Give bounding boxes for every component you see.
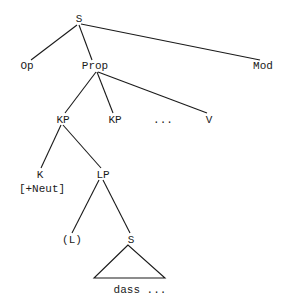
edge-kp1-k [41,125,61,168]
node-kp2: KP [108,114,122,126]
edge-s-op [31,25,77,60]
triangle-content-dass: dass ... [114,284,167,296]
triangle-abbreviation [94,245,165,278]
node-s-root: S [76,13,83,25]
edge-lp-s [103,180,130,233]
node-k-feature: [+Neut] [19,183,65,195]
syntax-tree-diagram: S Op Prop Mod KP KP ... V K [+Neut] LP (… [0,0,283,308]
node-v: V [206,114,213,126]
node-s-embedded: S [128,234,135,246]
node-l-optional: (L) [62,234,82,246]
node-op: Op [20,60,33,72]
edge-lp-l [72,180,99,233]
edge-s-mod [81,24,260,60]
edge-s-prop [79,25,92,60]
node-prop: Prop [82,60,108,72]
edge-prop-kp2 [97,72,113,113]
node-ellipsis: ... [153,114,173,126]
edge-kp1-lp [63,125,101,168]
node-lp: LP [96,169,110,181]
node-kp1: KP [56,114,70,126]
edge-prop-v [98,72,207,113]
edge-prop-kp1 [65,72,96,113]
node-mod: Mod [253,60,273,72]
node-k: K [37,169,44,181]
